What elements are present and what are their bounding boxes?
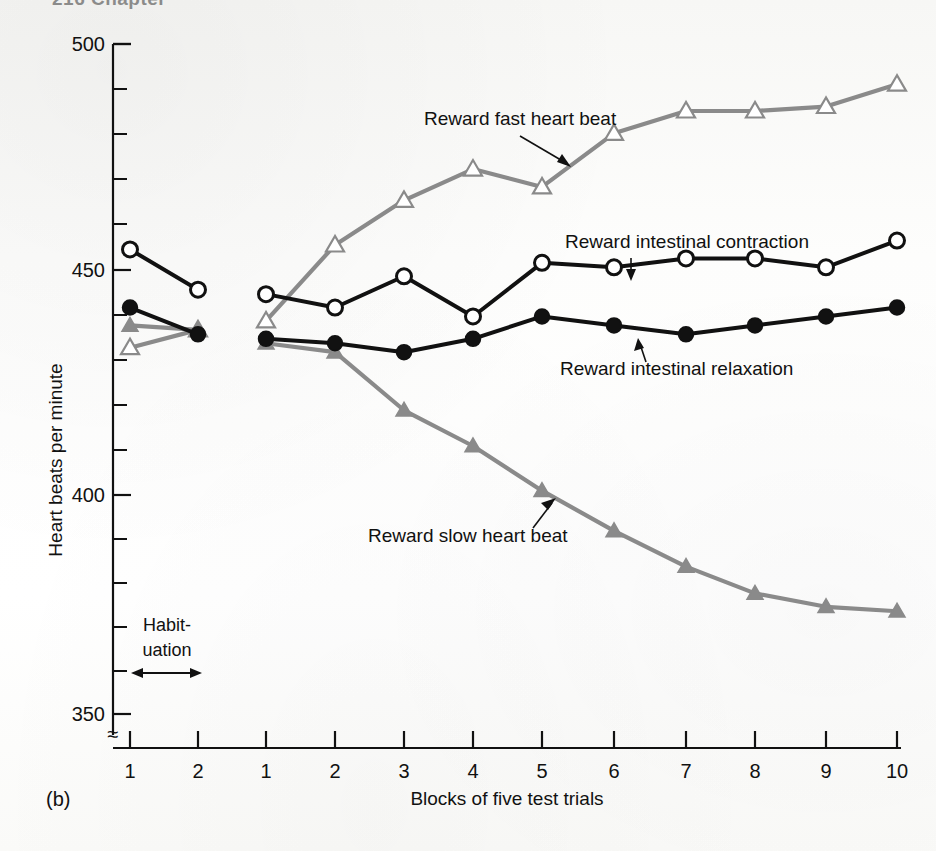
x-tick-label-2: 2 <box>329 760 340 782</box>
habituation-label-line2: uation <box>142 640 191 660</box>
data-point-open-circle <box>328 300 343 315</box>
data-point-open-triangle <box>464 160 482 175</box>
data-point-open-circle <box>890 233 905 248</box>
data-point-open-triangle <box>326 236 344 251</box>
test-blocks-line <box>266 343 897 611</box>
panel-label: (b) <box>46 788 70 810</box>
habituation-line <box>130 249 198 289</box>
data-point-open-circle <box>191 282 206 297</box>
data-point-open-circle <box>259 287 274 302</box>
x-tick-label-10: 10 <box>886 760 908 782</box>
x-tick-label-hab-1: 1 <box>124 760 135 782</box>
data-point-filled-circle <box>679 327 694 342</box>
y-axis-title: Heart beats per minute <box>45 363 66 556</box>
x-tick-label-8: 8 <box>749 760 760 782</box>
data-point-filled-circle <box>328 336 343 351</box>
x-axis-test-ticks <box>266 731 897 748</box>
data-point-filled-circle <box>607 318 622 333</box>
annotation-label-intestinal-contraction: Reward intestinal contraction <box>565 231 809 252</box>
x-tick-label-3: 3 <box>398 760 409 782</box>
heart-rate-line-chart: 500 450 400 350 ≈ Heart beats per minute <box>0 0 936 851</box>
data-point-open-triangle <box>888 75 906 90</box>
data-point-open-circle <box>607 260 622 275</box>
y-tick-label-350: 350 <box>72 703 105 725</box>
data-point-filled-circle <box>397 345 412 360</box>
data-point-open-circle <box>679 251 694 266</box>
x-tick-label-9: 9 <box>820 760 831 782</box>
data-point-filled-circle <box>535 309 550 324</box>
y-tick-label-450: 450 <box>72 259 105 281</box>
data-point-filled-circle <box>259 331 274 346</box>
habituation-label-line1: Habit- <box>143 615 191 635</box>
data-point-open-circle <box>397 269 412 284</box>
data-point-open-circle <box>819 260 834 275</box>
test-blocks-line <box>266 308 897 353</box>
x-axis-test-tick-labels: 1 2 3 4 5 6 7 8 9 10 <box>260 760 908 782</box>
x-axis-habituation-ticks <box>130 731 198 748</box>
x-tick-label-4: 4 <box>467 760 478 782</box>
data-point-open-circle <box>123 242 138 257</box>
habituation-line <box>130 308 198 335</box>
annotation-fast-heart-beat: Reward fast heart beat <box>424 108 617 167</box>
data-point-open-circle <box>535 255 550 270</box>
axis-break-symbol: ≈ <box>108 723 119 745</box>
data-point-filled-circle <box>819 309 834 324</box>
series-reward-intestinal-relaxation <box>123 300 905 360</box>
annotation-slow-heart-beat: Reward slow heart beat <box>368 498 568 546</box>
habituation-bracket <box>131 668 202 678</box>
data-point-filled-circle <box>123 300 138 315</box>
annotation-label-intestinal-relaxation: Reward intestinal relaxation <box>560 358 793 379</box>
data-point-open-circle <box>466 309 481 324</box>
annotation-label-fast-heart-beat: Reward fast heart beat <box>424 108 617 129</box>
data-point-filled-circle <box>890 300 905 315</box>
y-tick-label-400: 400 <box>72 484 105 506</box>
data-point-filled-circle <box>191 327 206 342</box>
x-tick-label-7: 7 <box>680 760 691 782</box>
x-tick-label-6: 6 <box>608 760 619 782</box>
figure-page: 216 Chapter 500 450 400 350 <box>0 0 936 851</box>
data-point-filled-circle <box>466 331 481 346</box>
y-axis-minor-ticks <box>113 89 127 671</box>
data-point-open-circle <box>748 251 763 266</box>
axes <box>113 44 901 748</box>
annotation-intestinal-relaxation: Reward intestinal relaxation <box>560 338 793 379</box>
x-tick-label-hab-2: 2 <box>192 760 203 782</box>
x-tick-label-1: 1 <box>260 760 271 782</box>
x-axis-title: Blocks of five test trials <box>410 788 603 809</box>
y-tick-label-500: 500 <box>72 33 105 55</box>
habituation-line <box>130 330 198 348</box>
annotation-label-slow-heart-beat: Reward slow heart beat <box>368 525 568 546</box>
y-axis-ticks: 500 450 400 350 <box>72 33 131 725</box>
x-tick-label-5: 5 <box>536 760 547 782</box>
data-point-filled-circle <box>748 318 763 333</box>
